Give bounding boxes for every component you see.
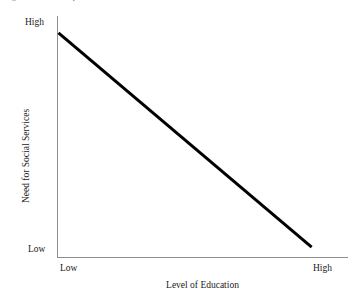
figure-title-cutoff: Negative relationship between education … (0, 0, 359, 5)
y-axis-tick-high: High (25, 17, 44, 28)
data-line-svg (57, 16, 348, 258)
figure-title-text: Negative relationship between education … (0, 0, 359, 2)
x-axis-label: Level of Education (57, 279, 348, 291)
chart-figure: Negative relationship between education … (0, 0, 359, 299)
plot-area (57, 16, 348, 258)
data-line-negative-slope (58, 33, 311, 247)
x-axis-tick-low: Low (60, 263, 77, 274)
x-axis-tick-high: High (313, 263, 332, 274)
y-axis-label: Need for Social Services (19, 35, 33, 277)
